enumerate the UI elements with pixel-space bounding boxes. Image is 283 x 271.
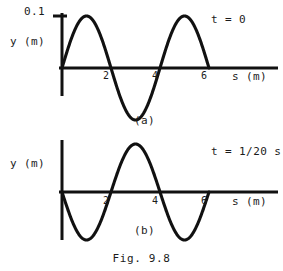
x-tick-label-a-6: 6: [201, 71, 207, 81]
figure-caption: Fig. 9.8: [0, 252, 283, 265]
sub-caption-a: (a): [134, 115, 155, 126]
x-axis-label-a: s (m): [232, 71, 267, 82]
condition-label-a: t = 0: [211, 14, 246, 25]
condition-label-b: t = 1/20 s: [211, 146, 281, 157]
y-axis-label-a: y (m): [10, 36, 45, 47]
x-tick-label-b-6: 6: [201, 196, 207, 206]
x-tick-label-a-2: 2: [103, 71, 109, 81]
y-axis-label-b: y (m): [10, 158, 45, 169]
x-axis-label-b: s (m): [232, 196, 267, 207]
panel-b: y (m) 2 4 6 s (m) t = 1/20 s (b): [0, 134, 283, 246]
x-tick-label-a-4: 4: [152, 71, 158, 81]
figure-9-8: 0.1 y (m) 2 4 6 s (m) t = 0 (a) y (m) 2 …: [0, 0, 283, 271]
y-axis-max-label: 0.1: [24, 6, 45, 17]
sub-caption-b: (b): [134, 225, 155, 236]
x-tick-label-b-2: 2: [103, 196, 109, 206]
panel-a: 0.1 y (m) 2 4 6 s (m) t = 0 (a): [0, 0, 283, 135]
x-tick-label-b-4: 4: [152, 196, 158, 206]
